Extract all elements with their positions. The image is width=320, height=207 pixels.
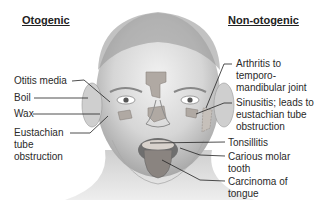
- heading-otogenic: Otogenic: [22, 14, 70, 26]
- label-carcinoma-of-tongue: Carcinoma of tongue: [228, 176, 287, 200]
- label-wax: Wax: [14, 108, 34, 120]
- label-arthritis-tmj: Arthritis to temporo- mandibular joint: [236, 58, 320, 94]
- label-tonsillitis: Tonsillitis: [228, 137, 268, 149]
- label-carious-molar-tooth: Carious molar tooth: [228, 151, 290, 175]
- label-sinusitis: Sinusitis; leads to eustachian tube obst…: [236, 97, 314, 133]
- label-eustachian-tube-obstruction: Eustachian tube obstruction: [14, 127, 63, 163]
- label-otitis-media: Otitis media: [14, 75, 67, 87]
- left-ear: [82, 83, 102, 127]
- right-ear: [214, 83, 234, 127]
- heading-non-otogenic: Non-otogenic: [228, 14, 299, 26]
- label-boil: Boil: [14, 92, 31, 104]
